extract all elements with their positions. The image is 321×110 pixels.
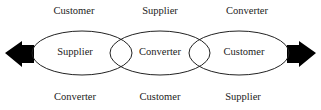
bottom-label-2: Customer — [120, 91, 200, 102]
ellipse-label-2: Converter — [120, 46, 200, 57]
top-label-3: Converter — [207, 5, 287, 16]
bottom-label-3: Supplier — [203, 91, 283, 102]
left-arrow-icon — [5, 41, 34, 67]
top-label-2: Supplier — [120, 5, 200, 16]
ellipse-label-1: Supplier — [35, 46, 115, 57]
right-arrow-icon — [287, 41, 316, 67]
bottom-label-1: Converter — [35, 91, 115, 102]
top-label-1: Customer — [34, 5, 114, 16]
ellipse-label-3: Customer — [204, 46, 284, 57]
